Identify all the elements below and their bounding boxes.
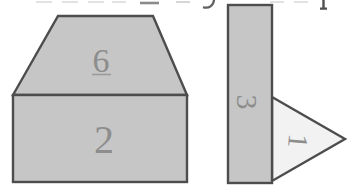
left-figure: 6 2 bbox=[13, 16, 187, 182]
base-rectangle-label: 2 bbox=[94, 117, 114, 162]
trapezoid-label: 6 bbox=[93, 42, 110, 79]
y-descender bbox=[203, 0, 214, 8]
right-figure: 3 1 bbox=[228, 5, 345, 183]
stem-with-bottom-serif bbox=[320, 0, 327, 9]
triangle-label: 1 bbox=[282, 133, 314, 150]
geometry-diagram: 6 2 3 1 bbox=[0, 0, 351, 190]
worksheet-figure: 6 2 3 1 bbox=[0, 0, 351, 190]
cropped-text-line bbox=[36, 0, 327, 9]
tall-rectangle-label: 3 bbox=[231, 95, 264, 110]
